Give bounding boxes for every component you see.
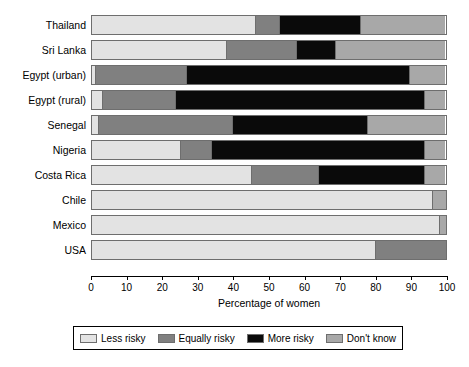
category-label: Chile bbox=[0, 190, 86, 210]
legend-item: Equally risky bbox=[158, 333, 235, 344]
bar-segment bbox=[335, 41, 445, 59]
x-axis-tick-label: 80 bbox=[361, 282, 391, 293]
category-label: Senegal bbox=[0, 115, 86, 135]
bar-segment bbox=[409, 66, 445, 84]
category-label: Egypt (urban) bbox=[0, 65, 86, 85]
bar-row bbox=[91, 65, 447, 85]
bar-row bbox=[91, 15, 447, 35]
category-label: Mexico bbox=[0, 215, 86, 235]
bar-segment bbox=[211, 141, 425, 159]
legend-item: More risky bbox=[247, 333, 314, 344]
stacked-bar-chart: ThailandSri LankaEgypt (urban)Egypt (rur… bbox=[0, 0, 469, 367]
bar-segment bbox=[226, 41, 297, 59]
bar-row bbox=[91, 90, 447, 110]
bar-row bbox=[91, 40, 447, 60]
bar-segment bbox=[92, 41, 227, 59]
bar-row bbox=[91, 140, 447, 160]
category-label: Thailand bbox=[0, 15, 86, 35]
x-axis-tick bbox=[340, 276, 341, 280]
bar-segment bbox=[432, 191, 446, 209]
bar-segment bbox=[318, 166, 425, 184]
x-axis-tick bbox=[127, 276, 128, 280]
category-label: Egypt (rural) bbox=[0, 90, 86, 110]
bar-segment bbox=[92, 166, 252, 184]
legend-swatch-icon bbox=[326, 334, 343, 343]
x-axis-tick-label: 0 bbox=[76, 282, 106, 293]
bar-row bbox=[91, 240, 447, 260]
legend-label: More risky bbox=[268, 333, 314, 344]
x-axis-title: Percentage of women bbox=[91, 297, 447, 309]
legend-swatch-icon bbox=[247, 334, 264, 343]
bar-segment bbox=[424, 141, 445, 159]
legend-item: Don't know bbox=[326, 333, 396, 344]
bar-segment bbox=[232, 116, 367, 134]
bar-segment bbox=[186, 66, 410, 84]
bar-segment bbox=[175, 91, 424, 109]
bar-segment bbox=[424, 91, 445, 109]
x-axis-tick-label: 70 bbox=[325, 282, 355, 293]
x-axis-tick-label: 20 bbox=[147, 282, 177, 293]
bar-segment bbox=[180, 141, 212, 159]
bar-segment bbox=[279, 16, 361, 34]
bar-segment bbox=[92, 141, 181, 159]
x-axis-tick-label: 50 bbox=[254, 282, 284, 293]
x-axis-tick bbox=[305, 276, 306, 280]
x-axis-tick bbox=[162, 276, 163, 280]
x-axis-tick bbox=[411, 276, 412, 280]
bar-segment bbox=[92, 16, 256, 34]
bar-segment bbox=[102, 91, 177, 109]
x-axis-tick-label: 60 bbox=[290, 282, 320, 293]
x-axis-tick bbox=[376, 276, 377, 280]
bar-row bbox=[91, 115, 447, 135]
x-axis-tick bbox=[91, 276, 92, 280]
legend-swatch-icon bbox=[158, 334, 175, 343]
category-label: Nigeria bbox=[0, 140, 86, 160]
legend-swatch-icon bbox=[80, 334, 97, 343]
bar-row bbox=[91, 215, 447, 235]
category-label: Sri Lanka bbox=[0, 40, 86, 60]
x-axis-tick bbox=[233, 276, 234, 280]
bar-segment bbox=[424, 166, 445, 184]
bar-segment bbox=[439, 216, 446, 234]
legend-label: Less risky bbox=[101, 333, 145, 344]
category-label: Costa Rica bbox=[0, 165, 86, 185]
x-axis-tick-label: 10 bbox=[112, 282, 142, 293]
bar-segment bbox=[92, 216, 440, 234]
bar-segment bbox=[92, 241, 376, 259]
x-axis-tick bbox=[447, 276, 448, 280]
bar-segment bbox=[360, 16, 445, 34]
legend-item: Less risky bbox=[80, 333, 145, 344]
x-axis-tick-label: 90 bbox=[396, 282, 426, 293]
bar-segment bbox=[92, 191, 433, 209]
x-axis-tick-label: 40 bbox=[218, 282, 248, 293]
x-axis-tick bbox=[198, 276, 199, 280]
bar-segment bbox=[251, 166, 319, 184]
chart-legend: Less riskyEqually riskyMore riskyDon't k… bbox=[73, 326, 403, 350]
bar-segment bbox=[296, 41, 335, 59]
bar-segment bbox=[367, 116, 445, 134]
legend-label: Equally risky bbox=[179, 333, 235, 344]
x-axis-tick-label: 100 bbox=[432, 282, 462, 293]
category-label: USA bbox=[0, 240, 86, 260]
plot-area bbox=[91, 12, 447, 270]
legend-label: Don't know bbox=[347, 333, 396, 344]
x-axis-tick-label: 30 bbox=[183, 282, 213, 293]
bar-segment bbox=[95, 66, 188, 84]
category-axis-labels: ThailandSri LankaEgypt (urban)Egypt (rur… bbox=[0, 12, 86, 270]
bar-segment bbox=[255, 16, 280, 34]
bar-row bbox=[91, 165, 447, 185]
bar-segment bbox=[375, 241, 446, 259]
bar-row bbox=[91, 190, 447, 210]
bar-segment bbox=[98, 116, 233, 134]
x-axis-tick bbox=[269, 276, 270, 280]
